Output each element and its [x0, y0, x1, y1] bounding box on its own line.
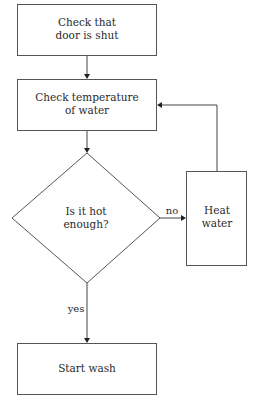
node-label-line2: water: [202, 217, 234, 229]
node-label-line2: enough?: [63, 218, 109, 230]
node-label-line1: Start wash: [58, 362, 116, 374]
washing-flowchart: Check that door is shut Check temperatur…: [0, 0, 255, 403]
arrow-down-icon: [84, 148, 90, 153]
node-label-line1: Check temperature: [35, 91, 138, 103]
node-start-wash: Start wash: [18, 344, 157, 395]
arrow-left-icon: [157, 102, 162, 108]
node-label-line1: Is it hot: [65, 205, 107, 217]
edge-heat-to-temp: [157, 102, 217, 171]
node-label-line2: of water: [65, 104, 110, 116]
node-label-line2: door is shut: [56, 29, 120, 41]
node-decision: Is it hot enough?: [12, 153, 160, 283]
arrow-down-icon: [84, 338, 90, 343]
arrow-down-icon: [84, 74, 90, 79]
edge-label-yes: yes: [67, 303, 85, 314]
node-check-temperature: Check temperature of water: [18, 80, 157, 131]
node-label-line1: Heat: [204, 204, 231, 216]
edge-decision-no: no: [160, 205, 186, 221]
arrow-right-icon: [181, 215, 186, 221]
edge-temp-to-decision: [84, 131, 90, 153]
node-heat-water: Heat water: [187, 172, 247, 266]
edge-label-no: no: [166, 205, 178, 216]
connector-line: [161, 105, 217, 171]
edge-decision-yes: yes: [67, 283, 90, 343]
edge-door-to-temp: [84, 56, 90, 79]
node-check-door: Check that door is shut: [18, 5, 157, 56]
node-label-line1: Check that: [58, 16, 117, 28]
